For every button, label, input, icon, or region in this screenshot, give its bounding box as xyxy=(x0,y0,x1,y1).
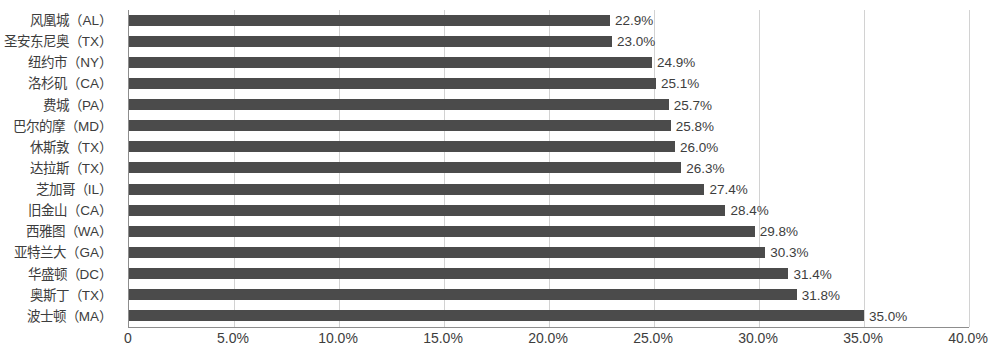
bar-row: 26.3% xyxy=(129,158,969,179)
category-label: 巴尔的摩（MD） xyxy=(13,116,112,137)
category-label: 亚特兰大（GA） xyxy=(14,242,112,263)
bar-value-label: 26.3% xyxy=(681,158,724,179)
x-tick-label: 0 xyxy=(124,330,132,346)
category-label: 华盛顿（DC） xyxy=(28,264,113,285)
bar xyxy=(129,162,681,173)
bar xyxy=(129,247,765,258)
category-label: 休斯敦（TX） xyxy=(30,137,112,158)
bar-value-label: 25.8% xyxy=(671,116,714,137)
category-label: 旧金山（CA） xyxy=(28,200,112,221)
bar-row: 26.0% xyxy=(129,137,969,158)
bar xyxy=(129,15,610,26)
gridline xyxy=(969,10,970,327)
bar xyxy=(129,268,788,279)
x-tick-label: 10.0% xyxy=(318,330,358,346)
bar xyxy=(129,57,652,68)
bar xyxy=(129,120,671,131)
bar-value-label: 26.0% xyxy=(675,137,718,158)
bar-row: 23.0% xyxy=(129,31,969,52)
bar-value-label: 22.9% xyxy=(610,10,653,31)
x-tick-label: 15.0% xyxy=(423,330,463,346)
bar-value-label: 24.9% xyxy=(652,52,695,73)
value-axis: 05.0%10.0%15.0%20.0%25.0%30.0%35.0%40.0% xyxy=(128,330,968,356)
bar xyxy=(129,184,704,195)
category-axis: 风凰城（AL）圣安东尼奥（TX）纽约市（NY）洛杉矶（CA）费城（PA）巴尔的摩… xyxy=(0,10,120,327)
bar-value-label: 31.8% xyxy=(797,285,840,306)
bar-row: 22.9% xyxy=(129,10,969,31)
bar xyxy=(129,99,669,110)
bar-value-label: 35.0% xyxy=(864,306,907,327)
bar-row: 25.1% xyxy=(129,73,969,94)
plot-area: 22.9%23.0%24.9%25.1%25.7%25.8%26.0%26.3%… xyxy=(128,10,969,328)
bar xyxy=(129,310,864,321)
bar-value-label: 25.1% xyxy=(656,73,699,94)
category-label: 风凰城（AL） xyxy=(30,10,112,31)
bar xyxy=(129,226,755,237)
bar-row: 25.7% xyxy=(129,95,969,116)
category-label: 芝加哥（IL） xyxy=(36,179,112,200)
bar-value-label: 27.4% xyxy=(704,179,747,200)
bar-row: 35.0% xyxy=(129,306,969,327)
category-label: 达拉斯（TX） xyxy=(30,158,112,179)
bar xyxy=(129,205,725,216)
category-label: 纽约市（NY） xyxy=(28,52,112,73)
bar-row: 31.4% xyxy=(129,264,969,285)
bar-value-label: 23.0% xyxy=(612,31,655,52)
bar-value-label: 31.4% xyxy=(788,264,831,285)
bar-value-label: 30.3% xyxy=(765,242,808,263)
x-tick-label: 35.0% xyxy=(843,330,883,346)
bar xyxy=(129,78,656,89)
category-label: 奥斯丁（TX） xyxy=(30,285,112,306)
category-label: 圣安东尼奥（TX） xyxy=(4,31,112,52)
bar-row: 29.8% xyxy=(129,221,969,242)
x-tick-label: 25.0% xyxy=(633,330,673,346)
bar-value-label: 28.4% xyxy=(725,200,768,221)
bar-row: 27.4% xyxy=(129,179,969,200)
bar-row: 28.4% xyxy=(129,200,969,221)
bar xyxy=(129,289,797,300)
category-label: 洛杉矶（CA） xyxy=(28,73,112,94)
bar-row: 31.8% xyxy=(129,285,969,306)
x-tick-label: 40.0% xyxy=(948,330,988,346)
bar xyxy=(129,141,675,152)
x-tick-label: 30.0% xyxy=(738,330,778,346)
category-label: 费城（PA） xyxy=(43,95,112,116)
x-tick-label: 20.0% xyxy=(528,330,568,346)
bar-value-label: 29.8% xyxy=(755,221,798,242)
bar-chart: 风凰城（AL）圣安东尼奥（TX）纽约市（NY）洛杉矶（CA）费城（PA）巴尔的摩… xyxy=(0,0,1001,362)
x-tick-label: 5.0% xyxy=(217,330,249,346)
bar-value-label: 25.7% xyxy=(669,95,712,116)
bar-row: 24.9% xyxy=(129,52,969,73)
bar-row: 30.3% xyxy=(129,242,969,263)
bar xyxy=(129,36,612,47)
category-label: 西雅图（WA） xyxy=(26,221,112,242)
bar-row: 25.8% xyxy=(129,116,969,137)
category-label: 波士顿（MA） xyxy=(27,306,112,327)
